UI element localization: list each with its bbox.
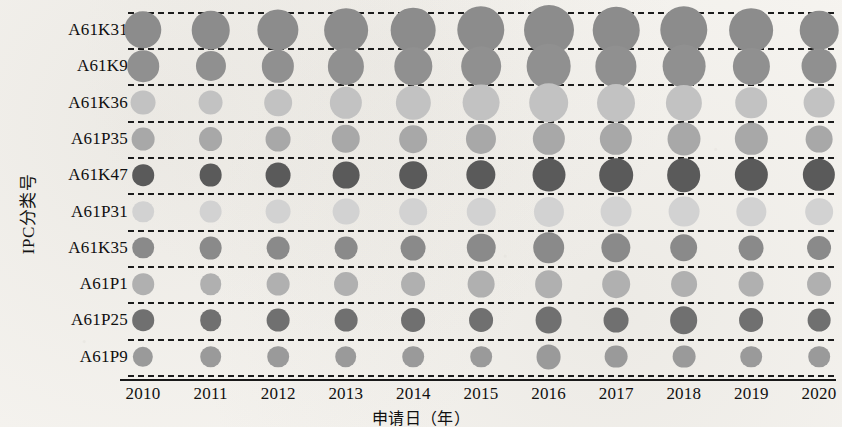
y-axis-tick-labels: A61K31A61K9A61K36A61P35A61K47A61P31A61K3… <box>18 0 128 427</box>
bubble-A61K9-2018 <box>662 45 705 88</box>
bubble-A61K36-2020 <box>804 87 835 118</box>
bubble-A61K31-2012 <box>258 9 299 50</box>
bubble-A61P35-2014 <box>400 125 428 153</box>
bubble-A61K35-2018 <box>670 234 698 262</box>
x-tick-2020: 2020 <box>802 384 837 404</box>
bubble-A61K36-2012 <box>264 89 292 117</box>
bubble-A61K9-2012 <box>262 50 294 82</box>
bubble-A61P25-2013 <box>334 309 357 332</box>
bubble-A61K47-2010 <box>132 164 154 186</box>
bubble-A61K36-2014 <box>396 85 430 119</box>
bubble-A61K47-2011 <box>199 164 222 187</box>
y-tick-A61P25: A61P25 <box>18 310 128 330</box>
bubble-A61K9-2015 <box>461 46 501 86</box>
bubble-A61P1-2012 <box>267 273 290 296</box>
bubble-A61K36-2016 <box>529 83 569 123</box>
bubble-A61P1-2017 <box>602 270 630 298</box>
y-tick-A61K47: A61K47 <box>18 165 128 185</box>
x-tick-2016: 2016 <box>531 384 566 404</box>
bubble-A61P9-2010 <box>133 347 153 367</box>
bubble-A61P1-2010 <box>132 273 154 295</box>
gridline <box>128 302 834 304</box>
bubble-A61K47-2017 <box>599 158 633 192</box>
bubble-A61K35-2019 <box>739 235 764 260</box>
bubble-A61P31-2020 <box>805 198 833 226</box>
bubble-A61P31-2012 <box>266 199 291 224</box>
bubble-A61P25-2017 <box>604 308 629 333</box>
bubble-A61P1-2020 <box>807 272 831 296</box>
bubble-A61P9-2014 <box>403 346 425 368</box>
bubble-A61K47-2018 <box>667 158 701 192</box>
bubble-A61K35-2011 <box>199 236 222 259</box>
bubble-A61P9-2017 <box>605 345 628 368</box>
bubble-A61K35-2014 <box>401 235 426 260</box>
gridline <box>128 230 834 232</box>
bubble-A61K36-2015 <box>463 84 500 121</box>
bubble-A61K9-2013 <box>328 48 364 84</box>
bubble-chart: IPC分类号 A61K31A61K9A61K36A61P35A61K47A61P… <box>0 0 842 427</box>
bubble-A61P25-2014 <box>401 308 425 332</box>
bubble-A61P9-2016 <box>536 344 561 369</box>
bubble-A61P35-2010 <box>132 128 155 151</box>
bubble-A61K9-2014 <box>395 48 432 85</box>
y-tick-A61P31: A61P31 <box>18 202 128 222</box>
x-tick-2013: 2013 <box>328 384 363 404</box>
bubble-A61K9-2010 <box>127 51 159 83</box>
bubble-A61K35-2012 <box>267 236 290 259</box>
y-tick-A61K35: A61K35 <box>18 238 128 258</box>
gridline <box>128 193 834 195</box>
bubble-A61P35-2020 <box>806 126 833 153</box>
bubble-A61P31-2011 <box>199 200 222 223</box>
bubble-A61P1-2014 <box>401 272 425 296</box>
y-tick-A61P35: A61P35 <box>18 129 128 149</box>
y-tick-A61P1: A61P1 <box>18 274 128 294</box>
bubble-A61P31-2015 <box>467 197 496 226</box>
x-tick-2019: 2019 <box>734 384 769 404</box>
bubble-A61P31-2010 <box>132 201 154 223</box>
bubble-A61K36-2019 <box>736 87 768 119</box>
bubble-A61K36-2013 <box>330 86 362 118</box>
bubble-A61K35-2020 <box>807 236 831 260</box>
bubble-A61P31-2013 <box>332 198 359 225</box>
bubble-A61P35-2011 <box>199 127 223 151</box>
bubble-A61P1-2011 <box>200 273 222 295</box>
bubble-A61P25-2018 <box>670 307 698 335</box>
bubble-A61P25-2011 <box>200 310 222 332</box>
bubble-A61K35-2013 <box>334 236 357 259</box>
x-tick-2017: 2017 <box>599 384 634 404</box>
y-tick-A61K36: A61K36 <box>18 93 128 113</box>
bubble-A61P35-2012 <box>266 126 291 151</box>
bubble-A61K35-2017 <box>602 233 631 262</box>
bubble-A61P25-2012 <box>267 309 290 332</box>
bubble-A61P25-2010 <box>132 310 154 332</box>
bubble-A61K36-2010 <box>131 90 156 115</box>
bubble-A61P9-2013 <box>335 346 357 368</box>
bubble-A61K31-2020 <box>800 11 839 50</box>
bubble-A61P35-2019 <box>735 123 767 155</box>
bubble-A61P9-2012 <box>267 346 289 368</box>
bubble-A61P35-2015 <box>466 124 496 154</box>
bubble-A61P1-2013 <box>334 272 358 296</box>
bubble-A61K31-2010 <box>124 11 161 48</box>
x-tick-2011: 2011 <box>194 384 228 404</box>
bubble-A61K35-2010 <box>132 237 154 259</box>
y-tick-A61K31: A61K31 <box>18 20 128 40</box>
bubble-A61P9-2018 <box>672 345 695 368</box>
bubble-A61K9-2019 <box>733 48 769 84</box>
bubble-A61P1-2016 <box>535 270 563 298</box>
bubble-A61K35-2016 <box>533 232 565 264</box>
x-tick-2015: 2015 <box>464 384 499 404</box>
bubble-A61P31-2019 <box>737 197 766 226</box>
bubble-A61P35-2016 <box>532 123 564 155</box>
bubble-A61P31-2017 <box>601 196 632 227</box>
bubble-A61P35-2018 <box>667 122 700 155</box>
bubble-A61K35-2015 <box>467 234 496 263</box>
bubble-A61K47-2014 <box>400 161 428 189</box>
x-axis-line <box>120 379 836 381</box>
bubble-A61P1-2019 <box>739 272 764 297</box>
bubble-A61K36-2017 <box>597 84 635 122</box>
bubble-A61P25-2019 <box>739 308 763 332</box>
x-axis-title: 申请日（年） <box>0 405 842 427</box>
plot-area <box>128 6 834 376</box>
bubble-A61K31-2011 <box>191 11 230 50</box>
